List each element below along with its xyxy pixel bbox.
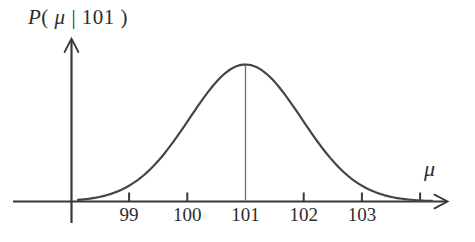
distribution-figure: P( μ | 101 ) μ 99100101102103 [0,0,475,242]
x-tick-label-101: 101 [231,205,260,226]
x-tick-label-102: 102 [289,205,318,226]
x-tick-label-103: 103 [348,205,377,226]
x-tick-label-99: 99 [120,205,139,226]
bell-curve [78,65,432,201]
x-tick-label-100: 100 [173,205,202,226]
